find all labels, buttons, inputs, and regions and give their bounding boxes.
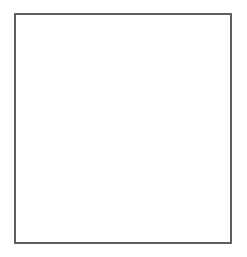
figure-container <box>0 0 247 257</box>
square-frame <box>15 14 231 243</box>
diagram-svg <box>0 0 247 257</box>
